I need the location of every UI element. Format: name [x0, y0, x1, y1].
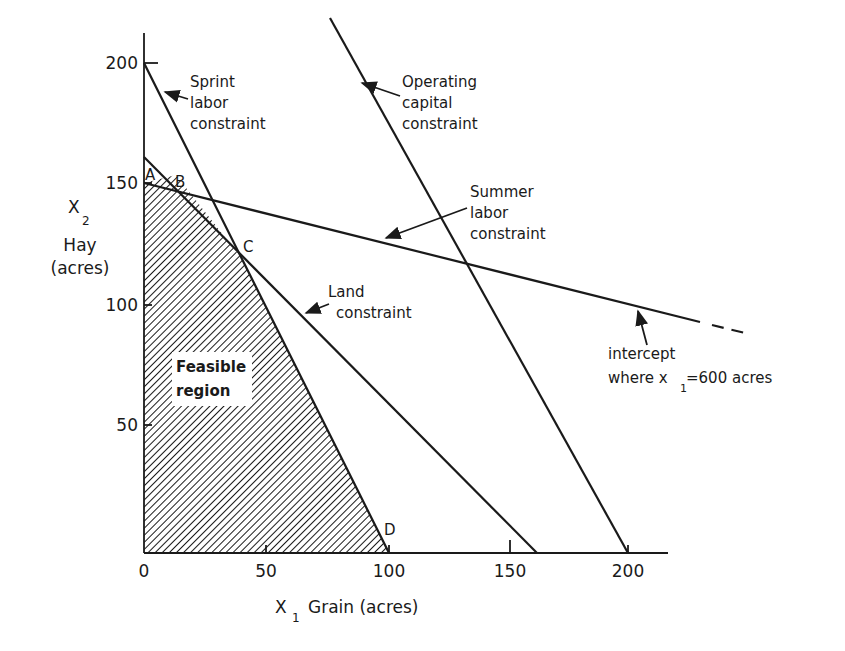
operating-label-line2: capital — [402, 94, 452, 112]
point-d-label: D — [384, 521, 396, 539]
land-arrow-icon — [306, 304, 329, 313]
intercept-label-line2a: where x — [608, 369, 668, 387]
sprint-arrow-icon — [165, 92, 188, 99]
point-b-label: B — [175, 173, 185, 191]
operating-arrow-icon — [362, 83, 400, 96]
intercept-label-line1: intercept — [608, 345, 676, 363]
y-tick-label-50: 50 — [116, 415, 138, 435]
summer-labor-dashed-extension — [712, 325, 745, 333]
intercept-arrow-icon — [638, 311, 647, 345]
point-a-label: A — [145, 166, 156, 184]
y-axis-title-line3: (acres) — [51, 258, 110, 278]
y-axis-title-sub: 2 — [82, 214, 90, 228]
operating-capital-line — [330, 18, 628, 553]
operating-label-line3: constraint — [402, 115, 478, 133]
summer-label-line3: constraint — [470, 225, 546, 243]
x-tick-label-0: 0 — [139, 561, 150, 581]
sprint-label-line2: labor — [190, 94, 229, 112]
x-tick-label-200: 200 — [612, 561, 644, 581]
sprint-label-line3: constraint — [190, 115, 266, 133]
x-axis-title-rest: Grain (acres) — [308, 597, 418, 617]
x-tick-label-150: 150 — [494, 561, 526, 581]
intercept-label-line2b: =600 acres — [686, 369, 772, 387]
feasible-label-line2: region — [176, 382, 230, 400]
x-tick-label-100: 100 — [373, 561, 405, 581]
y-tick-label-100: 100 — [106, 295, 138, 315]
point-c-label: C — [243, 238, 253, 256]
x-axis-title-sub: 1 — [292, 611, 300, 625]
operating-label-line1: Operating — [402, 73, 477, 91]
land-label-line2: constraint — [336, 304, 412, 322]
y-tick-label-150: 150 — [106, 173, 138, 193]
x-axis-title-var: X — [275, 597, 287, 617]
y-tick-label-200: 200 — [106, 53, 138, 73]
lp-constraint-diagram: Feasible region 200 150 100 50 0 50 100 … — [0, 0, 845, 651]
y-axis-title-line2: Hay — [63, 235, 96, 255]
summer-label-line1: Summer — [470, 183, 534, 201]
summer-label-line2: labor — [470, 204, 509, 222]
x-tick-label-50: 50 — [255, 561, 277, 581]
y-axis-title-var: X — [68, 197, 80, 217]
summer-arrow-icon — [386, 208, 467, 238]
feasible-label-line1: Feasible — [176, 358, 246, 376]
sprint-label-line1: Sprint — [190, 73, 235, 91]
land-label-line1: Land — [328, 283, 365, 301]
